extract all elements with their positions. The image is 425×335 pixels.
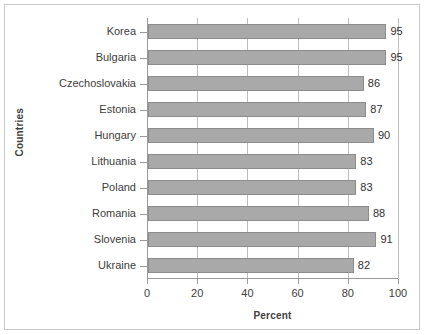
y-tick-label: Poland	[102, 180, 136, 195]
y-tick-label: Korea	[107, 24, 136, 39]
bar	[148, 206, 369, 221]
bar-value-label: 95	[390, 50, 402, 65]
y-tick-label: Bulgaria	[96, 50, 136, 65]
bar	[148, 76, 364, 91]
y-tick	[140, 162, 147, 163]
bar-value-label: 95	[390, 24, 402, 39]
y-tick	[140, 266, 147, 267]
bar	[148, 128, 374, 143]
x-tick	[247, 279, 248, 284]
bar	[148, 50, 386, 65]
x-tick	[197, 279, 198, 284]
y-tick	[140, 240, 147, 241]
y-tick-label: Romania	[92, 206, 136, 221]
x-tick-label: 20	[177, 287, 217, 299]
x-tick-label: 0	[127, 287, 167, 299]
y-tick	[140, 188, 147, 189]
x-axis-title: Percent	[147, 310, 398, 321]
bar-value-label: 82	[358, 258, 370, 273]
x-tick	[348, 279, 349, 284]
x-axis-line	[147, 278, 398, 279]
bar	[148, 258, 354, 273]
y-tick-label: Slovenia	[94, 232, 136, 247]
y-tick	[140, 58, 147, 59]
bar-value-label: 83	[360, 180, 372, 195]
y-tick	[140, 214, 147, 215]
bar	[148, 24, 386, 39]
bar	[148, 102, 366, 117]
x-tick-label: 60	[278, 287, 318, 299]
y-tick-label: Hungary	[94, 128, 136, 143]
bar	[148, 232, 376, 247]
plot-area: 020406080100Korea95Bulgaria95Czechoslova…	[147, 18, 398, 278]
x-tick-label: 100	[378, 287, 418, 299]
chart-figure: Countries Percent 020406080100Korea95Bul…	[0, 0, 425, 335]
y-tick	[140, 32, 147, 33]
bar-value-label: 83	[360, 154, 372, 169]
bar	[148, 154, 356, 169]
x-tick-label: 80	[328, 287, 368, 299]
bar-value-label: 86	[368, 76, 380, 91]
y-tick-label: Estonia	[99, 102, 136, 117]
x-tick	[398, 279, 399, 284]
bar	[148, 180, 356, 195]
y-tick-label: Ukraine	[98, 258, 136, 273]
x-tick	[147, 279, 148, 284]
y-tick	[140, 110, 147, 111]
y-tick-label: Lithuania	[91, 154, 136, 169]
y-tick-label: Czechoslovakia	[59, 76, 136, 91]
y-tick	[140, 136, 147, 137]
y-tick	[140, 84, 147, 85]
x-tick-label: 40	[227, 287, 267, 299]
bar-value-label: 87	[370, 102, 382, 117]
y-axis-title: Countries	[13, 108, 27, 156]
bar-value-label: 90	[378, 128, 390, 143]
bar-value-label: 91	[380, 232, 392, 247]
bar-value-label: 88	[373, 206, 385, 221]
x-tick	[298, 279, 299, 284]
